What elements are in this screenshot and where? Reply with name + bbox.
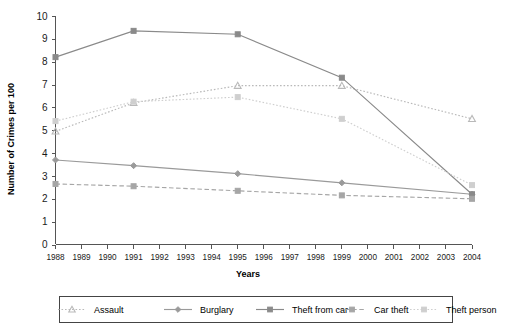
x-tick-label: 1997 (281, 253, 300, 262)
series-assault (52, 82, 475, 134)
series-line (56, 184, 473, 199)
x-tick-label: 1994 (203, 253, 222, 262)
data-point-marker-diamond (339, 180, 345, 186)
legend-item-assault[interactable]: Assault (58, 305, 124, 315)
data-point-marker-square (131, 28, 136, 33)
x-tick-label: 1988 (46, 253, 65, 262)
y-axis-ticks: 012345678910 (36, 11, 55, 251)
series-line (56, 86, 473, 132)
data-point-marker-square (422, 307, 427, 312)
x-tick-label: 2004 (463, 253, 482, 262)
y-tick-label: 4 (42, 148, 48, 159)
chart-figure: Number of Crimes per 100 Years 012345678… (0, 0, 512, 334)
data-point-marker-triangle (338, 82, 345, 88)
series-group (52, 28, 475, 201)
data-point-marker-diamond (175, 307, 181, 313)
x-tick-label: 2002 (411, 253, 430, 262)
data-point-marker-square (53, 181, 58, 186)
y-tick-label: 7 (42, 79, 48, 90)
y-tick-label: 9 (42, 33, 48, 44)
x-tick-label: 1991 (124, 253, 143, 262)
y-tick-label: 5 (42, 125, 48, 136)
data-point-marker-square (350, 307, 355, 312)
legend-item-car-theft[interactable]: Car theft (338, 305, 409, 315)
x-tick-label: 2000 (359, 253, 378, 262)
y-tick-label: 2 (42, 193, 48, 204)
legend-label: Burglary (200, 305, 234, 315)
data-point-marker-diamond (235, 171, 241, 177)
x-tick-label: 1998 (307, 253, 326, 262)
y-tick-label: 8 (42, 56, 48, 67)
data-point-marker-square (339, 116, 344, 121)
series-theft-person (53, 95, 475, 188)
data-point-marker-square (53, 55, 58, 60)
series-theft-from-car (53, 28, 475, 196)
legend-item-burglary[interactable]: Burglary (164, 305, 234, 315)
y-tick-label: 10 (36, 11, 48, 22)
legend-label: Assault (94, 305, 124, 315)
data-point-marker-square (235, 188, 240, 193)
data-point-marker-square (131, 184, 136, 189)
x-tick-label: 1999 (333, 253, 352, 262)
legend-label: Theft person (446, 305, 497, 315)
legend-item-theft-person[interactable]: Theft person (410, 305, 497, 315)
series-line (56, 97, 473, 185)
line-chart: Number of Crimes per 100 Years 012345678… (0, 0, 512, 334)
x-tick-label: 1996 (255, 253, 274, 262)
legend-item-theft-from-car[interactable]: Theft from car (256, 305, 348, 315)
series-burglary (53, 157, 476, 197)
y-axis-label: Number of Crimes per 100 (6, 83, 16, 195)
x-axis-label: Years (236, 269, 260, 279)
data-point-marker-square (339, 193, 344, 198)
data-point-marker-square (470, 183, 475, 188)
x-tick-label: 2003 (437, 253, 456, 262)
y-tick-label: 0 (42, 239, 48, 250)
legend-entries: AssaultBurglaryTheft from carCar theftTh… (58, 305, 497, 315)
series-car-theft (53, 181, 475, 201)
y-tick-label: 1 (42, 216, 48, 227)
series-line (56, 160, 473, 194)
y-tick-label: 6 (42, 102, 48, 113)
x-tick-label: 2001 (385, 253, 404, 262)
x-tick-label: 1992 (151, 253, 170, 262)
legend-label: Car theft (374, 305, 409, 315)
data-point-marker-square (268, 307, 273, 312)
x-tick-label: 1995 (229, 253, 248, 262)
data-point-marker-diamond (131, 163, 137, 169)
series-line (56, 31, 473, 194)
x-axis-ticks: 1988198919901991199219931994199519961997… (46, 245, 481, 262)
data-point-marker-square (470, 196, 475, 201)
data-point-marker-square (131, 99, 136, 104)
x-tick-label: 1990 (98, 253, 117, 262)
data-point-marker-diamond (53, 157, 59, 163)
data-point-marker-square (53, 119, 58, 124)
data-point-marker-square (339, 75, 344, 80)
data-point-marker-triangle (234, 82, 241, 88)
data-point-marker-square (235, 95, 240, 100)
y-tick-label: 3 (42, 171, 48, 182)
x-tick-label: 1993 (177, 253, 196, 262)
data-point-marker-square (235, 32, 240, 37)
x-tick-label: 1989 (72, 253, 91, 262)
